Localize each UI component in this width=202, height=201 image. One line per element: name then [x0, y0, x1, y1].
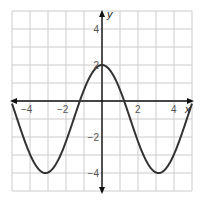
y-tick-label: 4: [93, 24, 99, 35]
x-axis-left-arrow-icon: [10, 98, 17, 104]
x-tick-labels: −4−224: [21, 104, 177, 115]
x-tick-label: 4: [171, 104, 177, 115]
function-graph: −4−224 42−2−4 x y: [0, 0, 202, 201]
x-tick-label: −2: [57, 104, 69, 115]
y-tick-label: −2: [88, 132, 100, 143]
y-axis-label: y: [106, 8, 114, 20]
x-tick-label: 2: [135, 104, 141, 115]
x-axis-label: x: [184, 103, 191, 115]
y-tick-label: 2: [93, 60, 99, 71]
x-tick-label: −4: [21, 104, 33, 115]
y-tick-label: −4: [88, 168, 100, 179]
